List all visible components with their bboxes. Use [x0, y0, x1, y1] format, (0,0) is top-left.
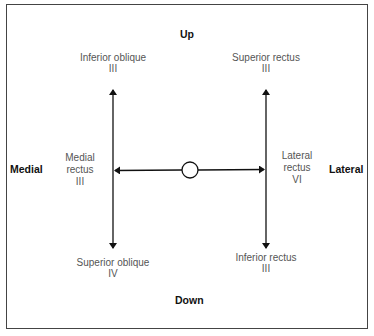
muscle-name: Superior rectus	[216, 52, 316, 63]
lateral-arrow	[198, 170, 264, 171]
direction-medial: Medial	[10, 163, 43, 175]
label-inferior-oblique: Inferior oblique III	[63, 52, 163, 74]
eye-center-circle	[182, 162, 198, 178]
label-superior-oblique: Superior oblique IV	[63, 257, 163, 279]
muscle-name-line2: rectus	[55, 164, 105, 176]
muscle-name: Inferior oblique	[63, 52, 163, 63]
direction-down: Down	[175, 294, 204, 306]
label-inferior-rectus: Inferior rectus III	[216, 252, 316, 274]
muscle-name-line1: Medial	[55, 152, 105, 164]
label-lateral-rectus: Lateral rectus VI	[272, 150, 322, 186]
direction-up: Up	[180, 28, 194, 40]
muscle-name: Superior oblique	[63, 257, 163, 268]
muscle-name-line2: rectus	[272, 162, 322, 174]
muscle-name: Inferior rectus	[216, 252, 316, 263]
nerve-number: III	[55, 176, 105, 188]
label-superior-rectus: Superior rectus III	[216, 52, 316, 74]
nerve-number: III	[216, 263, 316, 274]
label-medial-rectus: Medial rectus III	[55, 152, 105, 188]
muscle-name-line1: Lateral	[272, 150, 322, 162]
medial-arrow	[115, 170, 182, 171]
direction-lateral: Lateral	[329, 163, 363, 175]
nerve-number: IV	[63, 268, 163, 279]
nerve-number: III	[63, 63, 163, 74]
nerve-number: VI	[272, 174, 322, 186]
nerve-number: III	[216, 63, 316, 74]
